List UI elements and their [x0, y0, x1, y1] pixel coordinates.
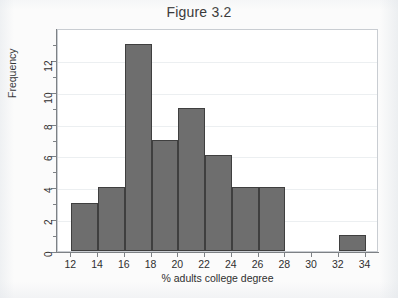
x-axis-tick-label: 34 — [353, 258, 377, 270]
y-axis-tick-label: 8 — [43, 124, 54, 146]
x-axis-tick — [97, 252, 98, 257]
x-axis-tick — [124, 252, 125, 257]
y-axis-tick-label: 4 — [43, 188, 54, 210]
x-axis-tick-label: 26 — [246, 258, 270, 270]
x-axis-tick — [177, 252, 178, 257]
histogram-bar — [205, 155, 232, 251]
x-axis-tick-label: 30 — [299, 258, 323, 270]
histogram-bar — [232, 187, 259, 251]
x-axis-tick-label: 28 — [272, 258, 296, 270]
x-axis-tick — [70, 252, 71, 257]
x-axis-tick — [151, 252, 152, 257]
plot-area — [57, 29, 378, 252]
x-axis-tick-label: 20 — [165, 258, 189, 270]
y-axis-minor-tick — [53, 204, 56, 205]
x-axis-tick — [365, 252, 366, 257]
histogram-bar — [259, 187, 286, 251]
x-axis-tick-label: 12 — [58, 258, 82, 270]
x-axis-tick-label: 32 — [326, 258, 350, 270]
x-axis-tick-label: 22 — [192, 258, 216, 270]
histogram-bar — [98, 187, 125, 251]
y-axis-minor-tick — [53, 109, 56, 110]
y-axis-minor-tick — [53, 45, 56, 46]
y-axis-minor-tick — [53, 77, 56, 78]
x-axis-tick — [284, 252, 285, 257]
y-axis-tick-label: 6 — [43, 156, 54, 178]
x-axis-tick-label: 16 — [112, 258, 136, 270]
x-axis-tick-label: 24 — [219, 258, 243, 270]
y-axis-minor-tick — [53, 172, 56, 173]
y-axis-tick-label: 0 — [43, 252, 54, 274]
y-axis-tick-label: 10 — [43, 92, 54, 114]
histogram-bar — [71, 203, 98, 251]
y-axis-minor-tick — [53, 141, 56, 142]
x-axis-line — [56, 252, 379, 253]
x-axis-tick-label: 18 — [139, 258, 163, 270]
x-axis-tick — [338, 252, 339, 257]
histogram-bar — [339, 235, 366, 251]
figure-page: Figure 3.2 024681012 1214161820222426283… — [0, 0, 398, 298]
histogram-bar — [152, 140, 179, 252]
chart-title: Figure 3.2 — [0, 4, 398, 20]
x-axis-tick — [231, 252, 232, 257]
x-axis-tick-label: 14 — [85, 258, 109, 270]
histogram-bar — [178, 108, 205, 251]
x-axis-tick — [258, 252, 259, 257]
y-axis-minor-tick — [53, 236, 56, 237]
x-axis-title: % adults college degree — [57, 272, 378, 284]
x-axis-tick — [311, 252, 312, 257]
y-axis-tick-label: 12 — [43, 60, 54, 82]
y-axis-title: Frequency — [6, 48, 18, 98]
y-axis-line — [56, 29, 57, 253]
x-axis-tick — [204, 252, 205, 257]
y-axis-tick-label: 2 — [43, 220, 54, 242]
histogram-bars — [58, 30, 377, 251]
histogram-bar — [125, 44, 152, 251]
